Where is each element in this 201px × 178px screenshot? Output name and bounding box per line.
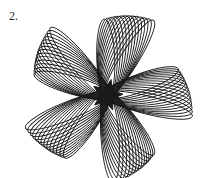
five-petal-loop-figure	[0, 0, 201, 178]
